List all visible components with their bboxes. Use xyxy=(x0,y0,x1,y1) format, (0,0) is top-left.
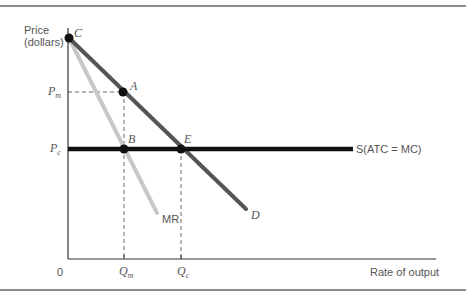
label-pm: Pm xyxy=(48,85,61,102)
marginal-revenue-curve xyxy=(69,38,157,213)
point-c xyxy=(65,34,74,43)
y-axis-label-line2: (dollars) xyxy=(24,36,64,48)
label-qc: Qc xyxy=(177,265,189,282)
label-qm: Qm xyxy=(119,265,133,282)
label-mr: MR xyxy=(162,213,179,225)
point-a xyxy=(119,88,128,97)
monopoly-diagram: Price (dollars) C A B E Pm Pc S(ATC = MC… xyxy=(0,0,466,298)
demand-curve xyxy=(69,38,246,209)
label-e: E xyxy=(184,133,191,145)
x-axis-label: Rate of output xyxy=(370,266,439,278)
y-axis-label-line1: Price xyxy=(24,24,49,36)
label-supply: S(ATC = MC) xyxy=(356,143,422,155)
label-origin: 0 xyxy=(57,266,63,278)
label-a: A xyxy=(130,80,137,92)
label-pc: Pc xyxy=(50,142,61,159)
label-c: C xyxy=(74,27,82,39)
label-demand: D xyxy=(251,209,260,221)
label-b: B xyxy=(128,133,135,145)
